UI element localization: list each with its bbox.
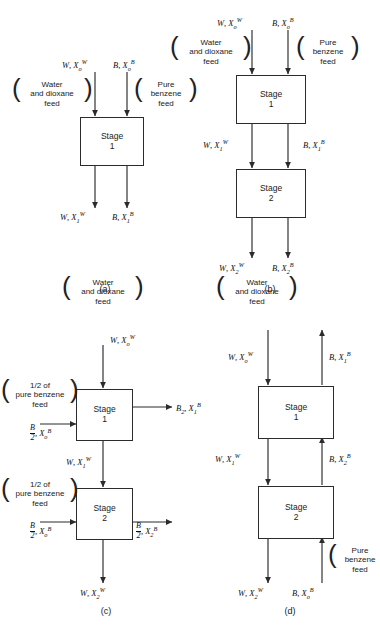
panel-d-outlet-benzene-label: B, X1B [329, 350, 351, 364]
panel-d-outlet-water-label: W, X2W [238, 586, 263, 600]
panel-b-stage-1: Stage 1 [236, 75, 306, 124]
stage-number: 2 [294, 513, 299, 523]
panel-d-inlet-water-label: W, XoW [228, 350, 253, 364]
panel-a-benzene-feed-paren-right: ) [189, 75, 198, 101]
panel-d-caption: (d) [270, 606, 310, 616]
panel-b-inlet-water-label: W, XoW [217, 16, 242, 30]
panel-d-stage-1: Stage 1 [258, 386, 334, 439]
panel-c-caption: (c) [86, 606, 126, 616]
panel-b-water-dioxane-feed: Water and dioxane feed [176, 38, 246, 66]
panel-c-stage-1: Stage 1 [76, 389, 133, 441]
panel-c-half-feed-2-paren-right: ) [70, 475, 79, 501]
panel-a-inlet-water-label: W, XoW [62, 58, 87, 72]
panel-c-water-dioxane-feed: Water and dioxane feed [68, 278, 138, 306]
panel-b-inlet-benzene-label: B, XoB [272, 16, 294, 30]
panel-d-mid-benzene-label: B, X2B [329, 452, 351, 466]
panel-c-half-benzene-feed-1: 1/2 of pure benzene feed [6, 381, 74, 409]
panel-c-inlet-benzene-1-label: B2, XoB [30, 424, 51, 442]
panel-a-inlet-benzene-label: B, XoB [113, 58, 135, 72]
panel-c-half-feed-1-paren-left: ( [1, 376, 10, 402]
panel-c-inlet-benzene-2-label: B2, XoB [30, 522, 51, 540]
stage-number: 2 [102, 514, 107, 524]
panel-a-water-dioxane-feed: Water and dioxane feed [17, 80, 87, 108]
stage-number: 1 [102, 415, 107, 425]
panel-c-stage-2: Stage 2 [76, 488, 133, 540]
panel-d-benzene-feed-paren-left: ( [328, 541, 337, 567]
panel-b-benzene-feed-paren-left: ( [296, 33, 305, 59]
panel-c-water-feed-paren-left: ( [62, 273, 71, 299]
panel-d-water-dioxane-feed: Water and dioxane feed [222, 278, 292, 306]
panel-c-outlet-water-label: W, X2W [80, 586, 105, 600]
panel-a-water-feed-paren-right: ) [84, 75, 93, 101]
panel-c-inlet-water-label: W, XoW [110, 333, 135, 347]
panel-c-half-benzene-feed-2: 1/2 of pure benzene feed [6, 480, 74, 508]
panel-a-pure-benzene-feed: Pure benzene feed [140, 80, 192, 108]
stage-number: 1 [269, 100, 274, 110]
panel-d-water-feed-paren-right: ) [289, 273, 298, 299]
panel-d-pure-benzene-feed: Pure benzene feed [334, 546, 380, 574]
panel-c-outlet-benzene-2-label: B2, X2B [136, 522, 157, 540]
panel-c-half-feed-2-paren-left: ( [1, 475, 10, 501]
panel-b-pure-benzene-feed: Pure benzene feed [302, 38, 354, 66]
panel-b-stage-2: Stage 2 [236, 169, 306, 218]
panel-d-stage-2: Stage 2 [258, 486, 334, 539]
panel-a-water-feed-paren-left: ( [12, 75, 21, 101]
stage-number: 2 [269, 194, 274, 204]
panel-b-water-feed-paren-right: ) [243, 33, 252, 59]
panel-c-outlet-benzene-1-label: B2, X1B [176, 401, 201, 415]
panel-d-inlet-benzene-label: B, XoB [292, 586, 314, 600]
stage-number: 1 [110, 142, 115, 152]
panel-a-stage-1: Stage 1 [80, 117, 144, 166]
panel-c-mid-water-label: W, X1W [66, 455, 91, 469]
panel-a-benzene-feed-paren-left: ( [134, 75, 143, 101]
panel-b-water-feed-paren-left: ( [170, 33, 179, 59]
panel-b-mid-water-label: W, X1W [203, 138, 228, 152]
panel-b-mid-benzene-label: B, X1B [303, 138, 325, 152]
panel-a-outlet-water-label: W, X1W [60, 210, 85, 224]
panel-d-mid-water-label: W, X1W [215, 452, 240, 466]
panel-c-water-feed-paren-right: ) [135, 273, 144, 299]
panel-c-half-feed-1-paren-right: ) [70, 376, 79, 402]
stage-number: 1 [294, 413, 299, 423]
panel-a-outlet-benzene-label: B, X1B [112, 210, 134, 224]
panel-d-water-feed-paren-left: ( [216, 273, 225, 299]
panel-b-benzene-feed-paren-right: ) [351, 33, 360, 59]
